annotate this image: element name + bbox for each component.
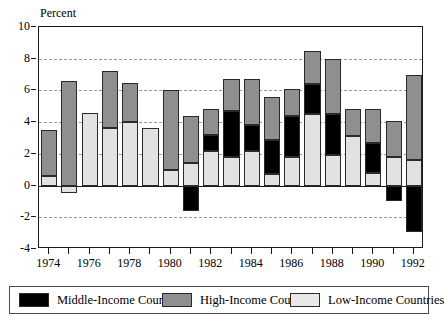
x-axis-tick-mark (68, 248, 69, 254)
bar-segment-low-income[interactable] (61, 186, 77, 194)
bar-segment-middle-income[interactable] (244, 125, 260, 150)
x-axis-tick-label: 1984 (239, 256, 263, 270)
bar-group[interactable] (284, 27, 300, 247)
bar-group[interactable] (102, 27, 118, 247)
bar-segment-high-income[interactable] (244, 79, 260, 125)
bar-segment-high-income[interactable] (203, 109, 219, 134)
legend-item[interactable]: Low-Income Countries (290, 291, 444, 309)
x-axis-tick-label: 1974 (36, 256, 60, 270)
legend-label: Low-Income Countries (328, 293, 444, 307)
bar-segment-low-income[interactable] (304, 114, 320, 185)
bar-segment-high-income[interactable] (365, 109, 381, 142)
bar-group[interactable] (406, 27, 422, 247)
y-axis-tick-mark (31, 153, 36, 154)
bar-group[interactable] (325, 27, 341, 247)
bar-group[interactable] (183, 27, 199, 247)
x-axis-tick-label: 1990 (360, 256, 384, 270)
bar-segment-low-income[interactable] (345, 136, 361, 185)
bar-segment-high-income[interactable] (264, 97, 280, 140)
y-axis-tick-mark (31, 89, 36, 90)
bar-segment-low-income[interactable] (325, 155, 341, 185)
bar-group[interactable] (365, 27, 381, 247)
bar-segment-middle-income[interactable] (223, 111, 239, 157)
bar-segment-high-income[interactable] (325, 59, 341, 115)
bar-segment-high-income[interactable] (122, 83, 138, 123)
bar-segment-high-income[interactable] (386, 121, 402, 157)
black-swatch-icon (19, 293, 49, 307)
x-axis-tick-label: 1980 (158, 256, 182, 270)
x-axis-tick-label: 1986 (279, 256, 303, 270)
bar-segment-middle-income[interactable] (264, 140, 280, 175)
x-axis-tick-label: 1982 (198, 256, 222, 270)
y-axis-tick-mark (31, 185, 36, 186)
bar-group[interactable] (82, 27, 98, 247)
bar-group[interactable] (386, 27, 402, 247)
bar-segment-high-income[interactable] (183, 116, 199, 164)
light-swatch-icon (290, 293, 320, 307)
x-axis-tick-mark (251, 248, 252, 254)
y-axis-tick-label: 0 (24, 179, 30, 191)
bar-segment-high-income[interactable] (163, 90, 179, 169)
bar-segment-middle-income[interactable] (183, 186, 199, 211)
bar-group[interactable] (61, 27, 77, 247)
bar-segment-low-income[interactable] (163, 170, 179, 186)
bar-group[interactable] (345, 27, 361, 247)
bar-segment-low-income[interactable] (244, 151, 260, 186)
bar-segment-low-income[interactable] (82, 113, 98, 186)
x-axis-tick-mark (149, 248, 150, 254)
bar-segment-high-income[interactable] (41, 130, 57, 176)
bar-segment-low-income[interactable] (284, 157, 300, 186)
bar-group[interactable] (163, 27, 179, 247)
y-axis-tick-mark (31, 26, 36, 27)
bar-group[interactable] (304, 27, 320, 247)
bar-segment-middle-income[interactable] (406, 186, 422, 232)
bar-segment-high-income[interactable] (406, 75, 422, 161)
bar-segment-low-income[interactable] (102, 128, 118, 185)
bar-segment-low-income[interactable] (223, 157, 239, 186)
bar-group[interactable] (223, 27, 239, 247)
x-axis-tick-mark (231, 248, 232, 254)
bar-segment-high-income[interactable] (304, 51, 320, 84)
x-axis-tick-mark (352, 248, 353, 254)
bar-segment-middle-income[interactable] (365, 143, 381, 173)
x-axis-tick-mark (129, 248, 130, 254)
y-axis-tick-label: 2 (24, 147, 30, 159)
bar-segment-middle-income[interactable] (386, 186, 402, 202)
y-axis: 1086420-2-4 (0, 26, 36, 248)
bar-group[interactable] (264, 27, 280, 247)
bar-group[interactable] (142, 27, 158, 247)
y-axis-tick-label: 6 (24, 83, 30, 95)
bar-segment-middle-income[interactable] (325, 114, 341, 155)
bar-segment-middle-income[interactable] (284, 116, 300, 157)
bar-segment-low-income[interactable] (142, 128, 158, 185)
bar-group[interactable] (41, 27, 57, 247)
bar-segment-low-income[interactable] (365, 173, 381, 186)
x-axis-tick-label: 1992 (401, 256, 425, 270)
y-axis-tick-label: 8 (24, 52, 30, 64)
plot-area (38, 26, 423, 248)
bar-segment-low-income[interactable] (203, 151, 219, 186)
bar-segment-low-income[interactable] (386, 157, 402, 186)
bar-segment-high-income[interactable] (61, 81, 77, 186)
bar-group[interactable] (244, 27, 260, 247)
y-axis-tick-mark (31, 248, 36, 249)
x-axis-tick-mark (170, 248, 171, 254)
bar-segment-high-income[interactable] (284, 89, 300, 116)
bar-segment-middle-income[interactable] (203, 135, 219, 151)
bar-segment-high-income[interactable] (223, 79, 239, 111)
x-axis-tick-mark (372, 248, 373, 254)
bar-segment-low-income[interactable] (41, 176, 57, 186)
bar-segment-low-income[interactable] (406, 160, 422, 185)
y-axis-tick-mark (31, 216, 36, 217)
bar-segment-low-income[interactable] (264, 174, 280, 185)
bar-segment-low-income[interactable] (122, 122, 138, 185)
bar-segment-middle-income[interactable] (304, 84, 320, 114)
bar-group[interactable] (122, 27, 138, 247)
bar-segment-high-income[interactable] (102, 71, 118, 128)
bar-segment-low-income[interactable] (183, 163, 199, 185)
x-axis-tick-label: 1978 (117, 256, 141, 270)
bar-group[interactable] (203, 27, 219, 247)
bar-segment-high-income[interactable] (345, 109, 361, 136)
x-axis-tick-mark (413, 248, 414, 254)
